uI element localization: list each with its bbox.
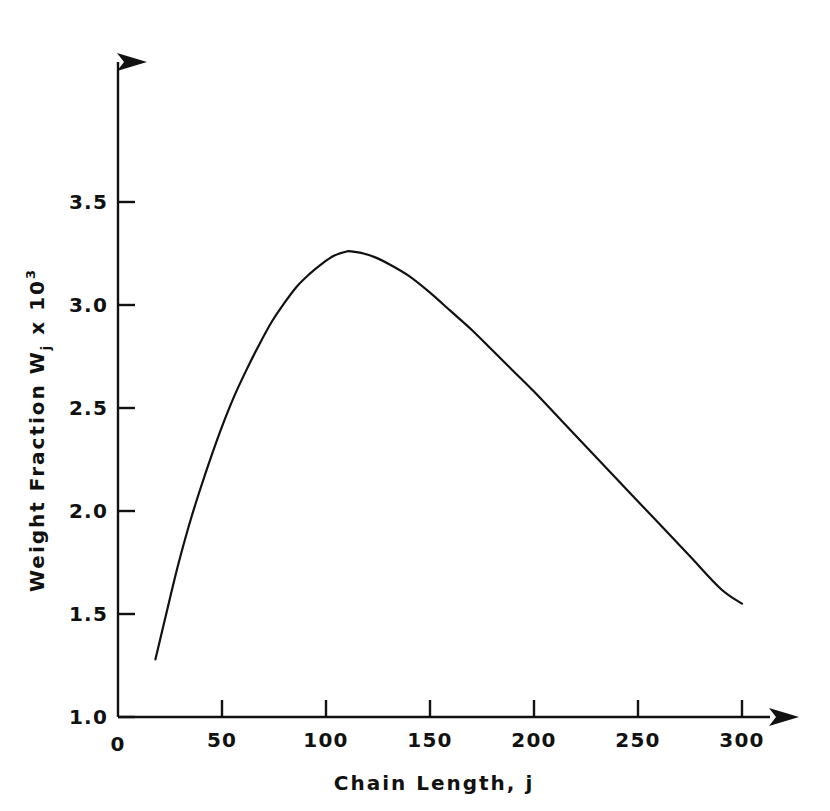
y-tick-label-1-0: 1.0	[69, 705, 108, 729]
y-tick-label-1-5: 1.5	[69, 602, 108, 626]
y-tick-label-2-0: 2.0	[69, 499, 108, 523]
x-tick-label-250: 250	[615, 728, 660, 752]
y-axis-title-subscript: j	[38, 344, 53, 351]
y-tick-label-3-0: 3.0	[69, 293, 108, 317]
x-axis: 0 50 100 150 200 250 300	[110, 700, 770, 756]
y-tick-label-2-5: 2.5	[69, 396, 108, 420]
x-axis-ticks	[222, 700, 742, 717]
data-curve-weight-fraction	[155, 251, 742, 659]
chart-plot: 1.0 1.5 2.0 2.5 3.0 3.5 0 50 100 150	[0, 0, 830, 811]
y-axis-ticks	[118, 202, 135, 717]
y-tick-label-3-5: 3.5	[69, 190, 108, 214]
x-tick-label-0: 0	[110, 732, 125, 756]
x-tick-label-200: 200	[511, 728, 556, 752]
y-axis-title-mid: x 10	[25, 279, 49, 344]
x-tick-label-100: 100	[303, 728, 348, 752]
x-tick-label-300: 300	[719, 728, 764, 752]
x-axis-title: Chain Length, j	[334, 771, 535, 795]
y-axis: 1.0 1.5 2.0 2.5 3.0 3.5	[69, 62, 135, 729]
figure-canvas: 1.0 1.5 2.0 2.5 3.0 3.5 0 50 100 150	[0, 0, 830, 811]
x-tick-label-150: 150	[407, 728, 452, 752]
x-tick-label-50: 50	[207, 728, 237, 752]
y-axis-title-superscript: 3	[23, 268, 38, 279]
y-axis-title: Weight Fraction Wj x 103	[23, 268, 53, 592]
svg-text:Weight Fraction Wj x 103: Weight Fraction Wj x 103	[23, 268, 53, 592]
y-axis-title-main: Weight Fraction W	[25, 350, 49, 592]
